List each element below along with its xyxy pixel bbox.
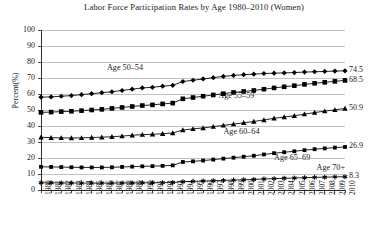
data-point-marker: [252, 154, 256, 158]
data-point-marker: [69, 109, 74, 114]
data-point-marker: [211, 93, 216, 98]
series-line: [41, 71, 345, 97]
data-point-marker: [332, 69, 337, 74]
data-point-marker: [342, 106, 347, 111]
data-point-marker: [302, 69, 307, 74]
data-point-marker: [70, 165, 74, 169]
series-asterisk: [39, 174, 347, 185]
data-point-marker: [120, 165, 124, 169]
series-diamond: [38, 68, 347, 100]
data-point-marker: [231, 73, 236, 78]
data-point-marker: [313, 147, 317, 151]
data-point-marker: [312, 81, 317, 86]
data-point-marker: [59, 109, 64, 114]
data-point-marker: [241, 72, 246, 77]
data-point-marker: [322, 69, 327, 74]
plot-area: [0, 0, 388, 234]
data-point-marker: [312, 69, 317, 74]
series-line: [41, 147, 345, 167]
data-point-marker: [161, 164, 165, 168]
data-point-marker: [150, 85, 155, 90]
data-point-marker: [130, 104, 135, 109]
data-point-marker: [80, 166, 84, 170]
data-point-marker: [201, 159, 205, 163]
data-point-marker: [190, 78, 195, 83]
data-point-marker: [282, 85, 287, 90]
data-point-marker: [251, 72, 256, 77]
data-point-marker: [89, 91, 94, 96]
data-point-marker: [191, 159, 195, 163]
data-point-marker: [180, 79, 185, 84]
data-point-marker: [181, 97, 186, 102]
data-point-marker: [342, 68, 347, 73]
data-point-marker: [130, 87, 135, 92]
data-point-marker: [170, 83, 175, 88]
data-point-marker: [120, 105, 125, 110]
data-point-marker: [232, 156, 236, 160]
data-point-marker: [49, 94, 54, 99]
data-point-marker: [201, 94, 206, 99]
data-point-marker: [59, 165, 63, 169]
data-point-marker: [140, 103, 145, 108]
data-point-marker: [130, 165, 134, 169]
data-point-marker: [160, 102, 165, 107]
series-square: [39, 78, 348, 115]
data-point-marker: [221, 91, 226, 96]
data-point-marker: [181, 160, 185, 164]
series-line: [41, 109, 345, 138]
data-point-marker: [110, 165, 114, 169]
data-point-marker: [322, 80, 327, 85]
data-point-marker: [140, 85, 145, 90]
data-point-marker: [292, 83, 297, 88]
data-point-marker: [333, 79, 338, 84]
data-point-marker: [89, 108, 94, 113]
data-point-marker: [109, 89, 114, 94]
data-point-marker: [201, 76, 206, 81]
data-point-marker: [79, 108, 84, 113]
data-point-marker: [272, 151, 276, 155]
data-point-marker: [39, 165, 43, 169]
data-point-marker: [222, 157, 226, 161]
data-point-marker: [90, 166, 94, 170]
data-point-marker: [79, 92, 84, 97]
data-point-marker: [303, 148, 307, 152]
data-point-marker: [262, 153, 266, 157]
data-point-marker: [271, 71, 276, 76]
data-point-marker: [99, 90, 104, 95]
data-series: [38, 68, 347, 185]
data-point-marker: [160, 84, 165, 89]
data-point-marker: [272, 86, 277, 91]
data-point-marker: [323, 147, 327, 151]
data-point-marker: [252, 88, 257, 93]
data-point-marker: [38, 95, 43, 100]
data-point-marker: [282, 70, 287, 75]
data-point-marker: [119, 88, 124, 93]
data-point-marker: [292, 70, 297, 75]
data-point-marker: [49, 110, 54, 115]
data-point-marker: [282, 150, 286, 154]
data-point-marker: [140, 164, 144, 168]
data-point-marker: [241, 89, 246, 94]
data-point-marker: [262, 87, 267, 92]
data-point-marker: [261, 71, 266, 76]
data-point-marker: [343, 78, 348, 83]
data-point-marker: [49, 165, 53, 169]
data-point-marker: [171, 163, 175, 167]
data-point-marker: [343, 145, 347, 149]
chart-container: Labor Force Participation Rates by Age 1…: [0, 0, 388, 234]
series-triangle: [38, 106, 347, 140]
data-point-marker: [59, 94, 64, 99]
data-point-marker: [231, 90, 236, 95]
series-small-square: [39, 145, 347, 169]
data-point-marker: [170, 101, 175, 106]
data-point-marker: [100, 166, 104, 170]
data-point-marker: [333, 146, 337, 150]
data-point-marker: [150, 103, 155, 108]
data-point-marker: [302, 82, 307, 87]
data-point-marker: [39, 110, 44, 115]
data-point-marker: [151, 164, 155, 168]
data-point-marker: [191, 95, 196, 100]
data-point-marker: [242, 155, 246, 159]
data-point-marker: [100, 107, 105, 112]
data-point-marker: [211, 75, 216, 80]
